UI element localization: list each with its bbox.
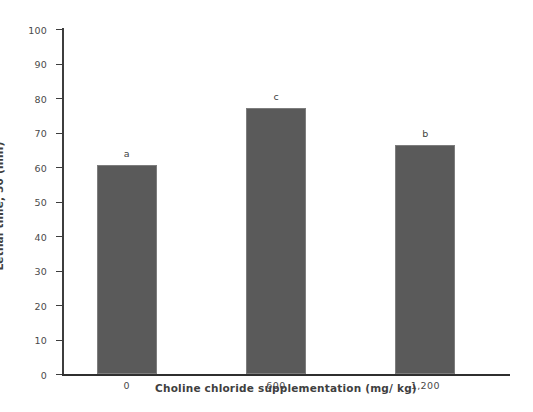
x-axis-title: Choline chloride supplementation (mg/ kg… [62,382,510,394]
bar-0: a [97,165,157,374]
y-tick-mark: 80 [56,98,62,99]
y-tick-label: 10 [35,335,48,346]
y-tick-label: 30 [35,266,48,277]
plot-area: 0102030405060708090100 acb 06001,200 [62,29,510,374]
y-tick-mark: 100 [56,29,62,30]
bar-1,200: b [395,145,455,374]
y-tick-mark: 10 [56,340,62,341]
bar-chart-figure: Lethal time, 50 (min) 010203040506070809… [0,0,533,412]
y-tick-label: 100 [28,24,47,35]
y-axis-title: Lethal time, 50 (min) [0,0,26,412]
y-tick-mark: 70 [56,133,62,134]
y-tick-label: 60 [35,162,48,173]
y-tick-label: 40 [35,231,48,242]
y-tick-mark: 40 [56,236,62,237]
y-tick-label: 70 [35,128,48,139]
y-axis-spine [62,28,64,374]
y-tick-label: 20 [35,300,48,311]
y-tick-mark: 30 [56,271,62,272]
y-tick-mark: 60 [56,167,62,168]
y-axis-title-text: Lethal time, 50 (min) [0,141,5,270]
bar-600: c [246,108,306,374]
bar-annotation-b: b [422,128,428,139]
bar-annotation-c: c [273,91,278,102]
y-tick-mark: 50 [56,202,62,203]
y-tick-mark: 20 [56,305,62,306]
y-tick-label: 0 [41,369,47,380]
x-axis-spine [62,374,510,376]
bar-annotation-a: a [124,148,130,159]
y-tick-label: 90 [35,59,48,70]
y-tick-mark: 0 [56,374,62,375]
y-tick-mark: 90 [56,64,62,65]
y-tick-label: 80 [35,93,48,104]
y-tick-label: 50 [35,197,48,208]
